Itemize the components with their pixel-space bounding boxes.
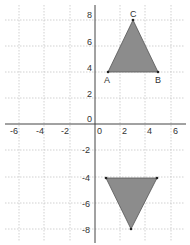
y-tick-label: 6 bbox=[87, 37, 92, 47]
vertex-b bbox=[157, 71, 160, 74]
vertex-reflected-c bbox=[130, 228, 133, 231]
reflected-triangle bbox=[106, 178, 157, 229]
y-tick-label: -2 bbox=[82, 145, 90, 155]
y-tick-label: 8 bbox=[87, 10, 92, 20]
label-a: A bbox=[104, 75, 110, 85]
x-tick-label: 6 bbox=[173, 126, 178, 136]
x-tick-label: 4 bbox=[147, 126, 152, 136]
x-tick-label: 2 bbox=[122, 126, 127, 136]
y-tick-label: 4 bbox=[87, 63, 92, 73]
vertex-reflected-a bbox=[105, 177, 108, 180]
label-c: C bbox=[130, 9, 137, 19]
label-b: B bbox=[155, 75, 161, 85]
x-tick-label: -2 bbox=[61, 126, 69, 136]
vertex-reflected-b bbox=[156, 177, 159, 180]
x-tick-label: -4 bbox=[36, 126, 44, 136]
y-tick-label: -8 bbox=[82, 225, 90, 235]
y-tick-label: 0 bbox=[87, 114, 92, 124]
vertex-a bbox=[107, 71, 110, 74]
coordinate-plane: -6 -4 -2 0 2 4 6 8 6 4 2 0 -2 -4 -6 -8 A… bbox=[0, 0, 190, 245]
x-tick-label: -6 bbox=[10, 126, 18, 136]
y-tick-label: 2 bbox=[87, 89, 92, 99]
y-tick-label: -4 bbox=[82, 173, 90, 183]
x-tick-label: 0 bbox=[97, 126, 102, 136]
vertex-c bbox=[132, 19, 135, 22]
y-tick-label: -6 bbox=[82, 199, 90, 209]
